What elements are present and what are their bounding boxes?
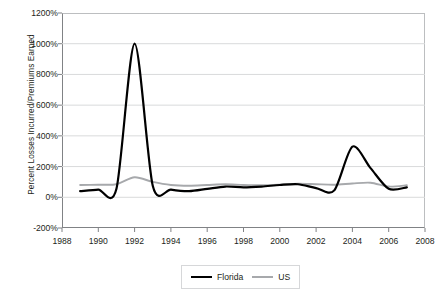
chart-container: Percent Losses Incurred/Premiums Earned … [0, 0, 448, 299]
x-tick-label: 2004 [332, 236, 372, 246]
legend-item-us: US [252, 272, 290, 282]
x-axis-tick-labels: 1988199019921994199619982000200220042006… [0, 0, 448, 299]
x-tick-label: 1996 [187, 236, 227, 246]
legend-swatch-florida-icon [191, 276, 212, 278]
legend-item-florida: Florida [191, 272, 243, 282]
legend-label-us: US [278, 272, 290, 282]
legend-label-florida: Florida [217, 272, 243, 282]
x-tick-label: 2008 [405, 236, 445, 246]
x-tick-label: 1988 [42, 236, 82, 246]
x-tick-label: 1998 [224, 236, 264, 246]
x-tick-label: 2002 [296, 236, 336, 246]
x-tick-label: 2006 [369, 236, 409, 246]
x-tick-label: 2000 [260, 236, 300, 246]
legend-swatch-us-icon [252, 276, 273, 278]
x-tick-label: 1990 [78, 236, 118, 246]
x-tick-label: 1994 [151, 236, 191, 246]
x-tick-label: 1992 [115, 236, 155, 246]
chart-legend: Florida US [181, 265, 300, 289]
